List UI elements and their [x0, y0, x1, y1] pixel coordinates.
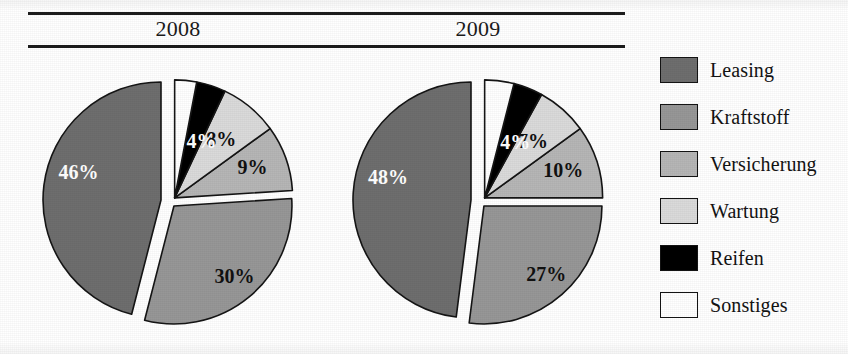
legend-item-kraftstoff[interactable]: Kraftstoff — [658, 101, 848, 135]
pie-value-label-reifen: 4% — [500, 131, 530, 153]
pie-value-label-leasing: 48% — [368, 166, 408, 188]
legend-item-leasing[interactable]: Leasing — [658, 54, 848, 88]
legend-label-wartung: Wartung — [710, 195, 779, 229]
legend-swatch-wartung — [660, 198, 698, 224]
pie-chart-2009: 48%27%10%7%4% — [323, 58, 633, 348]
legend-label-kraftstoff: Kraftstoff — [710, 101, 790, 135]
chart-title-left: 2008 — [108, 16, 248, 42]
header-rule-bottom — [28, 45, 625, 48]
chart-title-right: 2009 — [408, 16, 548, 42]
legend-item-reifen[interactable]: Reifen — [658, 242, 848, 276]
pie-value-label-versicherung: 9% — [237, 156, 267, 178]
pie-slice-leasing[interactable] — [353, 82, 471, 317]
legend: LeasingKraftstoffVersicherungWartungReif… — [658, 54, 848, 344]
pie-value-label-kraftstoff: 30% — [215, 265, 255, 287]
pie-slice-leasing[interactable] — [43, 82, 161, 314]
chart-figure: 2008 2009 46%30%9%8%4% 48%27%10%7%4% Lea… — [0, 0, 848, 354]
legend-swatch-sonstiges — [660, 292, 698, 318]
legend-label-reifen: Reifen — [710, 242, 764, 276]
pie-value-label-versicherung: 10% — [543, 159, 583, 181]
legend-swatch-reifen — [660, 245, 698, 271]
legend-swatch-kraftstoff — [660, 104, 698, 130]
pie-value-label-leasing: 46% — [58, 161, 98, 183]
pie-chart-2008: 46%30%9%8%4% — [13, 58, 323, 348]
header-rule-top — [28, 12, 625, 15]
pie-value-label-kraftstoff: 27% — [526, 263, 566, 285]
pie-value-label-reifen: 4% — [187, 130, 217, 152]
legend-item-sonstiges[interactable]: Sonstiges — [658, 289, 848, 323]
legend-label-versicherung: Versicherung — [710, 148, 817, 182]
legend-label-leasing: Leasing — [710, 54, 774, 88]
legend-item-wartung[interactable]: Wartung — [658, 195, 848, 229]
legend-item-versicherung[interactable]: Versicherung — [658, 148, 848, 182]
legend-swatch-leasing — [660, 57, 698, 83]
legend-label-sonstiges: Sonstiges — [710, 289, 788, 323]
legend-swatch-versicherung — [660, 151, 698, 177]
pie-slice-kraftstoff[interactable] — [145, 199, 292, 324]
